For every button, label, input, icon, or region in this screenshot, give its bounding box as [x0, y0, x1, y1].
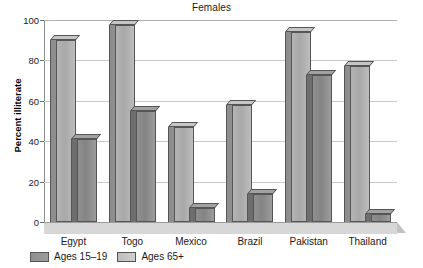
floor-side — [397, 222, 406, 233]
bar-top — [130, 106, 160, 111]
x-label-pakistan: Pakistan — [279, 236, 338, 247]
bar-top — [344, 61, 374, 66]
bar-egypt-ages-15-19 — [77, 139, 97, 222]
legend-swatch-icon — [117, 252, 136, 262]
bar-face — [195, 208, 215, 222]
y-tick-label-100: 100 — [23, 15, 39, 26]
x-axis-labels: EgyptTogoMexicoBrazilPakistanThailand — [44, 236, 397, 250]
bar-face — [77, 139, 97, 222]
bar-group-togo — [103, 20, 162, 222]
bar-top — [306, 70, 336, 75]
legend-item-ages-65-plus[interactable]: Ages 65+ — [117, 251, 184, 262]
bar-face — [253, 194, 273, 222]
bar-face — [371, 214, 391, 222]
y-tick-label-20: 20 — [28, 176, 39, 187]
bar-top — [189, 203, 219, 208]
x-label-egypt: Egypt — [44, 236, 103, 247]
legend-label: Ages 65+ — [141, 251, 184, 262]
bar-group-egypt — [44, 20, 103, 222]
x-label-mexico: Mexico — [162, 236, 221, 247]
legend-item-ages-15-19[interactable]: Ages 15–19 — [30, 251, 107, 262]
bar-top — [226, 100, 256, 105]
bar-group-mexico — [162, 20, 221, 222]
bar-face — [136, 111, 156, 222]
chart-floor — [44, 222, 406, 233]
bar-top — [109, 20, 139, 25]
y-axis-title: Percent illiterate — [12, 61, 23, 171]
bar-top — [71, 134, 101, 139]
bar-face — [312, 75, 332, 222]
bar-group-thailand — [338, 20, 397, 222]
bar-brazil-ages-15-19 — [253, 194, 273, 222]
bar-top — [285, 27, 315, 32]
bar-top — [50, 35, 80, 40]
x-label-togo: Togo — [103, 236, 162, 247]
y-tick-label-60: 60 — [28, 95, 39, 106]
bars-layer — [44, 20, 397, 222]
chart-legend: Ages 15–19Ages 65+ — [30, 251, 184, 262]
chart-title: Females — [0, 2, 423, 13]
bar-thailand-ages-65-plus — [350, 66, 370, 222]
bar-group-brazil — [221, 20, 280, 222]
bar-top — [168, 122, 198, 127]
bar-top — [247, 189, 277, 194]
legend-label: Ages 15–19 — [54, 251, 107, 262]
legend-swatch-icon — [30, 252, 49, 262]
y-tick-label-0: 0 — [34, 217, 39, 228]
bar-togo-ages-15-19 — [136, 111, 156, 222]
bar-mexico-ages-15-19 — [195, 208, 215, 222]
bar-chart: Females Percent illiterate 020406080100 … — [0, 0, 423, 268]
y-tick-label-40: 40 — [28, 136, 39, 147]
x-label-brazil: Brazil — [221, 236, 280, 247]
bar-thailand-ages-15-19 — [371, 214, 391, 222]
bar-group-pakistan — [279, 20, 338, 222]
floor-top — [44, 222, 397, 234]
bar-top — [365, 209, 395, 214]
x-label-thailand: Thailand — [338, 236, 397, 247]
bar-face — [350, 66, 370, 222]
y-tick-label-80: 80 — [28, 55, 39, 66]
bar-pakistan-ages-15-19 — [312, 75, 332, 222]
